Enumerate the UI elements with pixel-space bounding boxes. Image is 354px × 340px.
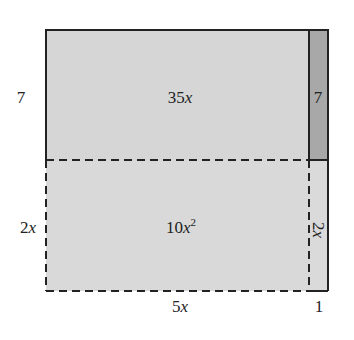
label-bottom-left: 5x [172, 298, 188, 315]
label-coef: 10 [166, 218, 183, 237]
region-label-bottom-left: 10x2 [166, 219, 196, 236]
label-exponent: 2 [191, 216, 197, 228]
label-coef: 1 [315, 297, 324, 316]
label-coef: 2 [20, 218, 29, 237]
label-left-bottom: 2x [20, 219, 36, 236]
label-var: x [309, 230, 328, 238]
label-left-top: 7 [17, 89, 26, 106]
region-label-bottom-right: 2x [310, 222, 327, 238]
label-var: x [28, 218, 36, 237]
region-label-top-right: 7 [314, 89, 323, 106]
label-coef: 2 [309, 222, 328, 231]
region-label-top-left: 35x [168, 89, 193, 106]
label-coef: 5 [172, 297, 181, 316]
area-model-diagram [0, 0, 354, 340]
label-bottom-right: 1 [315, 298, 324, 315]
label-coef: 7 [17, 88, 26, 107]
label-var: x [183, 218, 191, 237]
label-coef: 7 [314, 88, 323, 107]
label-var: x [180, 297, 188, 316]
label-var: x [185, 88, 193, 107]
label-coef: 35 [168, 88, 185, 107]
